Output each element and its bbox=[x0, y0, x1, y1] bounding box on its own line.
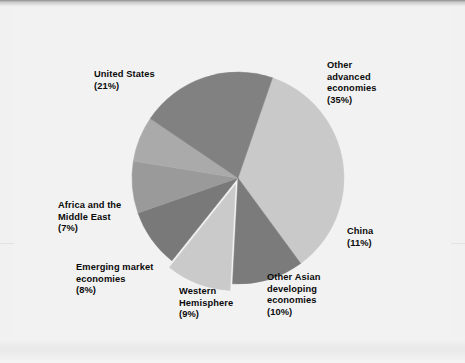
slice-label-line1: China bbox=[347, 226, 373, 236]
plot-area: Other advanced economies (35%) China (11… bbox=[14, 8, 451, 335]
pie-slices-group bbox=[132, 72, 344, 290]
page-edge-shadow bbox=[0, 0, 465, 6]
slice-label-line3: economies bbox=[267, 295, 316, 305]
slice-label-line2: developing bbox=[267, 284, 317, 294]
slice-label-line2: Middle East bbox=[58, 212, 111, 222]
slice-label-line2: advanced bbox=[327, 72, 371, 82]
slice-value-other-asian-developing-economies: (10%) bbox=[267, 307, 320, 319]
pie-chart-figure: Other advanced economies (35%) China (11… bbox=[0, 0, 465, 363]
page-bottom-shadow bbox=[0, 337, 465, 363]
slice-label-line1: Other Asian bbox=[267, 272, 320, 282]
slice-value-other-advanced-economies: (35%) bbox=[327, 95, 376, 107]
slice-label-line3: economies bbox=[327, 83, 376, 93]
slice-value-emerging-market-economies: (8%) bbox=[76, 285, 153, 297]
slice-value-china: (11%) bbox=[347, 238, 373, 250]
slice-label-other-asian-developing-economies: Other Asian developing economies (10%) bbox=[267, 272, 320, 318]
slice-label-china: China (11%) bbox=[347, 226, 373, 249]
slice-label-other-advanced-economies: Other advanced economies (35%) bbox=[327, 60, 376, 106]
slice-label-western-hemisphere: Western Hemisphere (9%) bbox=[179, 286, 233, 321]
slice-value-united-states: (21%) bbox=[94, 81, 155, 93]
slice-label-line1: United States bbox=[94, 69, 155, 79]
slice-label-africa-and-the-middle-east: Africa and the Middle East (7%) bbox=[58, 200, 121, 235]
slice-label-line1: Africa and the bbox=[58, 200, 121, 210]
slice-label-line1: Western bbox=[179, 286, 216, 296]
slice-value-africa-and-the-middle-east: (7%) bbox=[58, 223, 121, 235]
slice-label-line1: Other bbox=[327, 60, 352, 70]
slice-value-western-hemisphere: (9%) bbox=[179, 309, 233, 321]
slice-label-line2: economies bbox=[76, 274, 125, 284]
slice-label-united-states: United States (21%) bbox=[94, 69, 155, 92]
slice-label-line2: Hemisphere bbox=[179, 298, 233, 308]
slice-label-emerging-market-economies: Emerging market economies (8%) bbox=[76, 262, 153, 297]
slice-label-line1: Emerging market bbox=[76, 262, 153, 272]
